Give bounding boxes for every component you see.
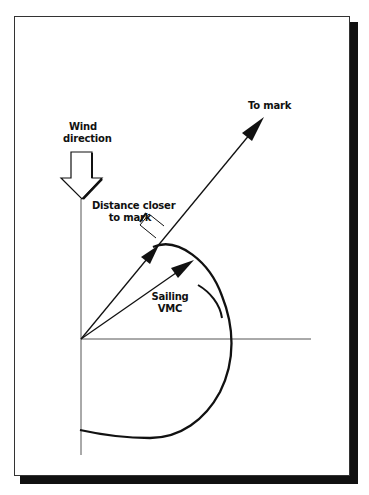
polar-curve	[80, 244, 232, 438]
distance-closer-label: Distance closer to mark	[92, 200, 174, 224]
vmc-diagram	[0, 0, 369, 495]
to-mark-label: To mark	[248, 100, 291, 112]
wind-label-line1: Wind	[63, 121, 103, 133]
wind-direction-arrow-icon	[61, 152, 102, 199]
distance-label-line2: to mark	[86, 212, 174, 224]
sailing-label-line2: VMC	[150, 303, 190, 315]
sailing-vmc-label: Sailing VMC	[150, 291, 190, 315]
distance-label-line1: Distance closer	[92, 200, 174, 212]
sailing-label-line1: Sailing	[150, 291, 190, 303]
tack-arc-icon	[198, 285, 222, 318]
to-mark-text: To mark	[248, 100, 291, 111]
wind-direction-label: Wind direction	[63, 121, 103, 145]
wind-label-line2: direction	[63, 133, 103, 145]
